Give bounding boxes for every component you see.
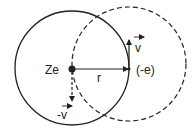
nucleus-label: Ze xyxy=(45,63,59,77)
orbit-diagram: Ze (-e) r v -v xyxy=(0,0,195,134)
velocity-label: v xyxy=(135,41,141,55)
radius-label: r xyxy=(97,71,101,85)
nucleus-dot xyxy=(69,66,76,73)
electron-label: (-e) xyxy=(136,63,155,77)
neg-velocity-label: -v xyxy=(57,108,67,122)
